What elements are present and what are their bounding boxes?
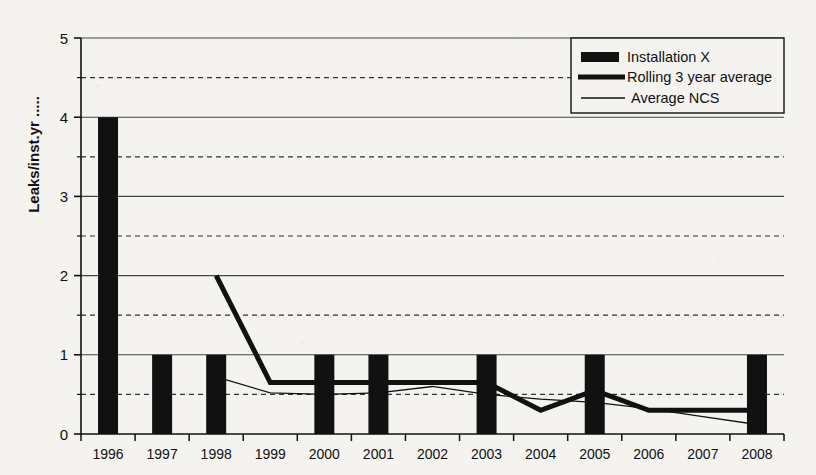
svg-text:2: 2 bbox=[60, 267, 68, 284]
legend-label-average-ncs: Average NCS bbox=[631, 90, 719, 106]
bar-1998 bbox=[206, 355, 226, 434]
bar-2001 bbox=[368, 355, 388, 434]
bar-1997 bbox=[152, 355, 172, 434]
chart-root: Leaks/inst.yr ..... 012345 1996199719981… bbox=[0, 0, 816, 475]
svg-text:0: 0 bbox=[60, 426, 68, 443]
x-tick-label-1996: 1996 bbox=[92, 446, 123, 462]
bar-2008 bbox=[747, 355, 767, 434]
x-tick-label-2001: 2001 bbox=[363, 446, 394, 462]
x-tick-label-1997: 1997 bbox=[147, 446, 178, 462]
x-tick-label-2004: 2004 bbox=[525, 446, 556, 462]
chart-svg: 012345 199619971998199920002001200220032… bbox=[0, 0, 816, 475]
svg-text:1: 1 bbox=[60, 346, 68, 363]
legend-label-rolling-3-year-average: Rolling 3 year average bbox=[627, 69, 772, 85]
legend-swatch-installation-x bbox=[581, 52, 619, 62]
minor-gridlines bbox=[81, 78, 784, 395]
svg-text:3: 3 bbox=[60, 188, 68, 205]
x-tick-label-2003: 2003 bbox=[471, 446, 502, 462]
x-tick-label-2002: 2002 bbox=[417, 446, 448, 462]
x-tick-label-2007: 2007 bbox=[687, 446, 718, 462]
x-tick-label-2005: 2005 bbox=[579, 446, 610, 462]
svg-text:5: 5 bbox=[60, 30, 68, 47]
x-tick-label-2000: 2000 bbox=[309, 446, 340, 462]
y-axis-ticks bbox=[74, 38, 81, 434]
x-tick-label-1999: 1999 bbox=[255, 446, 286, 462]
legend: Installation X Rolling 3 year average Av… bbox=[571, 38, 784, 113]
svg-text:4: 4 bbox=[60, 109, 68, 126]
x-tick-label-2008: 2008 bbox=[741, 446, 772, 462]
x-axis-tick-labels: 1996199719981999200020012002200320042005… bbox=[92, 446, 772, 462]
y-axis-tick-labels: 012345 bbox=[60, 30, 68, 443]
bar-1996 bbox=[98, 117, 118, 434]
x-tick-label-2006: 2006 bbox=[633, 446, 664, 462]
legend-label-installation-x: Installation X bbox=[627, 49, 710, 65]
x-axis-ticks bbox=[81, 434, 784, 441]
x-tick-label-1998: 1998 bbox=[201, 446, 232, 462]
